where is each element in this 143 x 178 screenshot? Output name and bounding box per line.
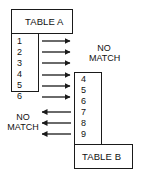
arrows-layer (0, 0, 143, 178)
